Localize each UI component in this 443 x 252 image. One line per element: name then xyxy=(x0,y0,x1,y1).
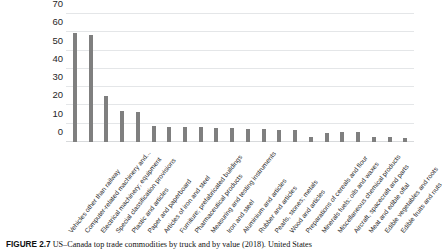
y-axis-tick-label: 70 xyxy=(52,0,63,9)
y-axis-tick-label: 50 xyxy=(52,34,63,45)
bar-slot xyxy=(114,14,130,142)
bar-slot xyxy=(397,14,413,142)
bar xyxy=(246,129,250,142)
bar-slot xyxy=(366,14,382,142)
bar-slot xyxy=(382,14,398,142)
y-axis-tick-label: 0 xyxy=(58,126,63,137)
bar xyxy=(104,96,108,142)
y-axis-tick-label: 10 xyxy=(52,107,63,118)
bar xyxy=(403,138,407,142)
figure-caption: FIGURE 2.7 US–Canada top trade commoditi… xyxy=(6,240,416,250)
bar xyxy=(325,133,329,142)
x-axis-category-labels: Vehicles other than railwayComputer-rela… xyxy=(66,143,414,235)
bar xyxy=(309,137,313,142)
bar xyxy=(73,33,77,142)
bar-slot xyxy=(287,14,303,142)
y-axis-title: US$ billions xyxy=(10,0,24,22)
figure-caption-text: US–Canada top trade commodities by truck… xyxy=(53,240,312,249)
bar-slot xyxy=(240,14,256,142)
bar xyxy=(214,128,218,142)
plot-inner: 010203040506070 xyxy=(66,14,414,142)
bar-slot xyxy=(130,14,146,142)
bar xyxy=(262,129,266,142)
bar xyxy=(340,132,344,142)
bar-series xyxy=(66,14,414,142)
bar-slot xyxy=(193,14,209,142)
bar-slot xyxy=(319,14,335,142)
bar-slot xyxy=(256,14,272,142)
bar-slot xyxy=(177,14,193,142)
bar-slot xyxy=(334,14,350,142)
bar xyxy=(230,128,234,142)
bar xyxy=(152,126,156,142)
bar xyxy=(183,127,187,142)
bar xyxy=(167,127,171,142)
bar xyxy=(293,130,297,142)
bar xyxy=(120,111,124,142)
bar-slot xyxy=(83,14,99,142)
bar xyxy=(199,127,203,142)
bar xyxy=(89,35,93,142)
bar xyxy=(356,132,360,142)
y-axis-tick-label: 30 xyxy=(52,71,63,82)
y-axis-tick-label: 40 xyxy=(52,52,63,63)
bar xyxy=(388,137,392,142)
bar-slot xyxy=(209,14,225,142)
bar xyxy=(372,137,376,142)
bar-slot xyxy=(303,14,319,142)
bar xyxy=(136,112,140,142)
plot-area: 010203040506070 xyxy=(66,10,414,142)
figure-number: FIGURE 2.7 xyxy=(6,240,51,249)
bar-slot xyxy=(146,14,162,142)
bar-slot xyxy=(272,14,288,142)
y-axis-title-wrap: US$ billions xyxy=(12,8,30,128)
bar-slot xyxy=(98,14,114,142)
y-axis-tick-label: 60 xyxy=(52,16,63,27)
bar-slot xyxy=(161,14,177,142)
bar-slot xyxy=(67,14,83,142)
bar-slot xyxy=(224,14,240,142)
bar-slot xyxy=(350,14,366,142)
y-axis-tick-label: 20 xyxy=(52,89,63,100)
bar xyxy=(277,130,281,142)
